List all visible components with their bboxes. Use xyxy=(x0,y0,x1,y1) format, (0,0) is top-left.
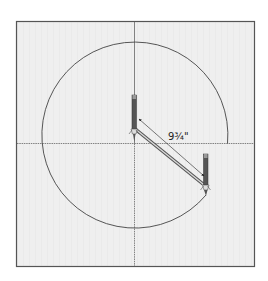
measurement-label: 9¾" xyxy=(168,131,189,142)
compass-diagram: 9¾" xyxy=(0,0,268,281)
drawing-panel xyxy=(17,22,255,267)
